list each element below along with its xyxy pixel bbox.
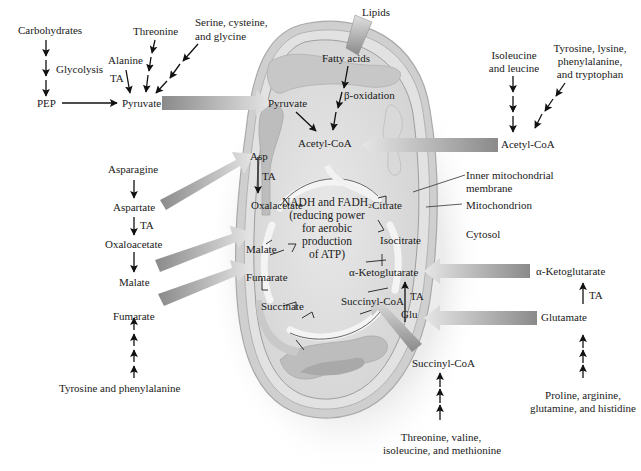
- label-glu: Glu: [401, 308, 418, 321]
- label-alpha-ketoglutarate-matrix: α-Ketoglutarate: [349, 266, 418, 279]
- isoleucine-line-1: Isoleucine: [484, 49, 544, 62]
- label-acetyl-coa-matrix: Acetyl-CoA: [298, 137, 352, 150]
- label-glutamate: Glutamate: [541, 311, 587, 324]
- label-ta-glu: TA: [410, 290, 424, 303]
- reducing-power-note: NADH and FADH₂ (reducing power for aerob…: [277, 196, 377, 261]
- tyrosine-line-1: Tyrosine, lysine,: [548, 42, 632, 55]
- label-fumarate-matrix: Fumarate: [246, 271, 288, 284]
- proline-line-2: glutamine, and histidine: [520, 402, 641, 415]
- label-threonine: Threonine: [133, 25, 178, 38]
- label-acetyl-coa-cytosol: Acetyl-CoA: [501, 138, 555, 151]
- label-fatty-acids: Fatty acids: [322, 52, 370, 65]
- label-succinyl-coa-cytosol: Succinyl-CoA: [412, 357, 475, 370]
- label-asp: Asp: [250, 150, 268, 163]
- label-inner-mitochondrial-membrane: Inner mitochondrial membrane: [466, 169, 554, 195]
- center-line-4: production: [277, 235, 377, 248]
- label-lipids: Lipids: [362, 6, 390, 19]
- label-tyrosine-lysine-group: Tyrosine, lysine, phenylalanine, and try…: [548, 42, 632, 81]
- label-ta-aspartate: TA: [140, 219, 154, 232]
- inner-membrane-line-1: Inner mitochondrial: [466, 169, 554, 182]
- label-asparagine: Asparagine: [108, 163, 158, 176]
- label-alpha-ketoglutarate-cytosol: α-Ketoglutarate: [536, 265, 605, 278]
- isoleucine-line-2: and leucine: [484, 62, 544, 75]
- label-carbohydrates: Carbohydrates: [18, 24, 82, 37]
- threonine-valine-line-2: isoleucine, and methionine: [383, 444, 499, 457]
- tyrosine-line-3: and tryptophan: [548, 68, 632, 81]
- label-alanine: Alanine: [108, 54, 143, 67]
- label-pyruvate-cytosol: Pyruvate: [122, 97, 161, 110]
- inner-membrane-line-2: membrane: [466, 182, 554, 195]
- label-isocitrate: Isocitrate: [380, 234, 421, 247]
- center-line-1: NADH and FADH₂: [277, 196, 377, 209]
- label-tyrosine-phenylalanine: Tyrosine and phenylalanine: [59, 382, 180, 395]
- center-line-3: for aerobic: [277, 222, 377, 235]
- label-glycolysis: Glycolysis: [56, 63, 103, 76]
- label-succinate: Succinate: [261, 300, 304, 313]
- label-ta-alanine: TA: [110, 72, 124, 85]
- label-proline-group: Proline, arginine, glutamine, and histid…: [520, 389, 641, 415]
- label-isoleucine-leucine: Isoleucine and leucine: [484, 49, 544, 75]
- label-succinyl-coa-matrix: Succinyl-CoA: [341, 295, 404, 308]
- label-serine-line2: and glycine: [195, 30, 246, 43]
- threonine-valine-line-1: Threonine, valine,: [383, 431, 499, 444]
- tyrosine-line-2: phenylalanine,: [548, 55, 632, 68]
- label-malate-cytosol: Malate: [119, 276, 150, 289]
- label-aspartate: Aspartate: [113, 201, 155, 214]
- label-oxaloacetate: Oxaloacetate: [105, 238, 162, 251]
- label-mitochondrion: Mitochondrion: [466, 199, 532, 212]
- label-threonine-valine-group: Threonine, valine, isoleucine, and methi…: [383, 431, 499, 457]
- center-line-2: (reducing power: [277, 209, 377, 222]
- label-ta-glutamate: TA: [589, 289, 603, 302]
- label-malate-matrix: Malate: [246, 243, 277, 256]
- proline-line-1: Proline, arginine,: [520, 389, 641, 402]
- center-line-5: of ATP): [277, 248, 377, 261]
- label-serine-line1: Serine, cysteine,: [195, 16, 267, 29]
- label-ta-asp: TA: [262, 170, 276, 183]
- label-pyruvate-matrix: Pyruvate: [268, 97, 307, 110]
- label-pep: PEP: [37, 97, 56, 110]
- label-fumarate-cytosol: Fumarate: [113, 310, 155, 323]
- label-cytosol: Cytosol: [466, 228, 500, 241]
- label-beta-oxidation: β-oxidation: [344, 89, 395, 102]
